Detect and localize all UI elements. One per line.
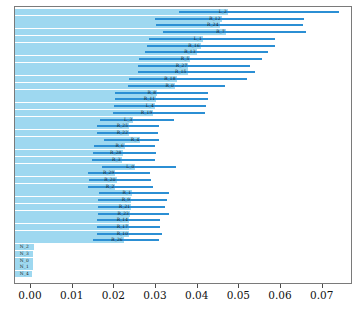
bar-error-interval — [98, 213, 170, 215]
bar-error-interval — [179, 11, 339, 13]
plot-area: L_2R_12R_24R_7L_1R_16R_13R_5R_27R_15R_18… — [14, 6, 352, 284]
bar-error-interval — [113, 112, 205, 114]
bar-error-interval — [156, 24, 304, 26]
bar-error-interval — [89, 179, 151, 181]
bar-error-interval — [145, 51, 268, 53]
bar-label: R_7 — [216, 28, 225, 36]
bar-error-interval — [114, 105, 206, 107]
bar-error-interval — [139, 58, 262, 60]
bar-error-interval — [98, 199, 167, 201]
bar-error-interval — [93, 239, 159, 241]
bar-error-interval — [93, 152, 156, 154]
bar-error-interval — [147, 45, 275, 47]
bar-error-interval — [88, 186, 153, 188]
bar-error-interval — [92, 159, 155, 161]
x-axis-tick-label: 0.04 — [185, 288, 208, 302]
bar-error-interval — [88, 172, 151, 174]
bar-label: R_26 — [111, 236, 123, 244]
bar-error-interval — [155, 18, 304, 20]
bar-error-interval — [138, 71, 255, 73]
bar-error-interval — [128, 85, 225, 87]
bar-error-interval — [94, 145, 155, 147]
bar-error-interval — [115, 92, 208, 94]
bar-label: L_0 — [126, 163, 134, 171]
x-axis-tick-label: 0.00 — [18, 288, 41, 302]
bars-layer: L_2R_12R_24R_7L_1R_16R_13R_5R_27R_15R_18… — [15, 7, 351, 283]
bar-label: R_0 — [165, 82, 174, 90]
x-axis-tick-label: 0.05 — [227, 288, 250, 302]
x-axis-tick-label: 0.02 — [102, 288, 125, 302]
bar-label: R_19 — [141, 109, 153, 117]
bar-error-interval — [129, 78, 247, 80]
bar-label: R_15 — [175, 68, 187, 76]
x-axis-tick-label: 0.07 — [310, 288, 333, 302]
figure-caption — [0, 310, 364, 322]
bar-error-interval — [97, 233, 162, 235]
bar-error-interval — [100, 119, 174, 121]
x-axis-tick-label: 0.06 — [268, 288, 291, 302]
figure-container: L_2R_12R_24R_7L_1R_16R_13R_5R_27R_15R_18… — [0, 0, 364, 322]
bar-error-interval — [98, 206, 165, 208]
bar-label: R_4 — [131, 136, 140, 144]
bar-error-interval — [149, 38, 275, 40]
bar-error-interval — [102, 166, 176, 168]
x-axis-tick-label: 0.03 — [143, 288, 166, 302]
bar-error-interval — [138, 65, 251, 67]
bar-label: N_4 — [20, 270, 29, 278]
x-axis-tick-label: 0.01 — [60, 288, 83, 302]
bar-error-interval — [163, 31, 306, 33]
bar-error-interval — [99, 192, 169, 194]
bar-error-interval — [115, 98, 208, 100]
x-axis: 0.000.010.020.030.040.050.060.07 — [14, 284, 352, 306]
